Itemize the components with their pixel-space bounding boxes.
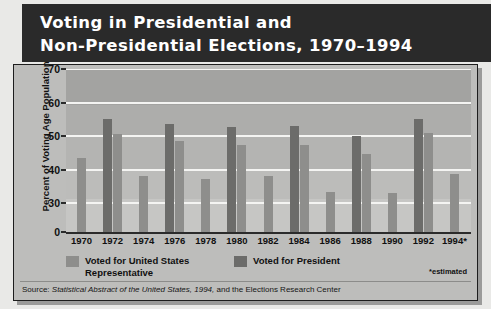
source-citation: Statistical Abstract of the United State… <box>52 285 214 294</box>
bar-house-1986 <box>326 192 335 232</box>
chart-panel: Percent of Voting Age Population 0304050… <box>13 64 478 301</box>
bar-house-1976 <box>175 141 184 232</box>
y-axis-tick-label: 0 <box>14 226 60 238</box>
gridline <box>66 169 471 171</box>
background-band <box>66 136 471 169</box>
x-axis-label-1988: 1988 <box>346 235 377 246</box>
plot-area <box>66 69 471 232</box>
bar-president-1984 <box>290 126 299 232</box>
bar-house-1980 <box>237 145 246 232</box>
background-band <box>66 69 471 105</box>
source-suffix: and the Elections Research Center <box>217 285 341 294</box>
y-axis-tick-label: 40 <box>14 164 60 176</box>
background-band <box>66 105 471 136</box>
gridline <box>66 135 471 137</box>
y-axis-tick-mark <box>61 169 66 171</box>
page-title-line-1: Voting in Presidential and <box>40 11 491 34</box>
x-axis-label-1984: 1984 <box>284 235 315 246</box>
x-axis-label-1970: 1970 <box>66 235 97 246</box>
source-divider <box>20 281 471 282</box>
legend-swatch-president-icon <box>234 256 247 267</box>
x-axis-line <box>66 232 471 234</box>
title-banner: Voting in Presidential and Non-President… <box>22 4 491 62</box>
bar-house-1984 <box>300 145 309 232</box>
bar-president-1980 <box>227 127 236 232</box>
x-axis-label-1978: 1978 <box>190 235 221 246</box>
y-axis-tick-label: 60 <box>14 97 60 109</box>
bar-house-1988 <box>362 154 371 232</box>
estimated-note: *estimated <box>429 267 467 276</box>
y-axis-tick-label: 30 <box>14 197 60 209</box>
legend-item-president: Voted for President <box>234 255 340 267</box>
bar-house-1994 <box>450 174 459 232</box>
legend-label-president: Voted for President <box>253 255 340 267</box>
bar-president-1976 <box>165 124 174 232</box>
legend-swatch-house-icon <box>66 256 79 267</box>
source-prefix: Source: <box>22 285 50 294</box>
page-title-line-2: Non-Presidential Elections, 1970–1994 <box>40 34 491 57</box>
x-axis-label-1990: 1990 <box>377 235 408 246</box>
y-axis-tick-mark <box>61 68 66 70</box>
x-axis-label-1982: 1982 <box>252 235 283 246</box>
bar-house-1992 <box>424 133 433 232</box>
x-axis-labels: 1970197219741976197819801982198419861988… <box>66 235 471 249</box>
y-axis-tick-mark <box>61 102 66 104</box>
source-line: Source: Statistical Abstract of the Unit… <box>22 285 471 294</box>
legend-item-house: Voted for United States Representative <box>66 255 235 278</box>
y-axis-tick-mark <box>61 202 66 204</box>
x-axis-label-1980: 1980 <box>221 235 252 246</box>
bar-house-1970 <box>77 158 86 232</box>
y-axis-tick-label: 50 <box>14 130 60 142</box>
bar-president-1972 <box>103 119 112 232</box>
legend-label-house: Voted for United States Representative <box>85 255 235 278</box>
x-axis-label-1992: 1992 <box>408 235 439 246</box>
bar-house-1974 <box>139 176 148 232</box>
bar-house-1978 <box>201 179 210 232</box>
chart-page: Voting in Presidential and Non-President… <box>0 0 491 309</box>
gridline <box>66 102 471 104</box>
y-axis-tick-label: 70 <box>14 63 60 75</box>
x-axis-label-1974: 1974 <box>128 235 159 246</box>
x-axis-label-1994: 1994* <box>439 235 470 246</box>
bar-president-1988 <box>352 136 361 232</box>
bar-house-1972 <box>113 134 122 232</box>
bar-house-1982 <box>264 176 273 232</box>
bar-house-1990 <box>388 193 397 232</box>
x-axis-label-1986: 1986 <box>315 235 346 246</box>
chart-legend: Voted for United States Representative V… <box>66 255 471 283</box>
x-axis-label-1976: 1976 <box>159 235 190 246</box>
gridline <box>66 69 471 70</box>
x-axis-label-1972: 1972 <box>97 235 128 246</box>
bar-president-1992 <box>414 119 423 232</box>
y-axis-tick-mark <box>61 135 66 137</box>
